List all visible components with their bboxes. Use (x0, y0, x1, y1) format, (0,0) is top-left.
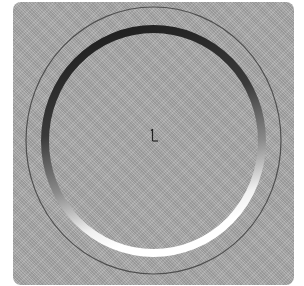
ring-diagram (0, 0, 304, 286)
axis-marker-icon (151, 129, 158, 141)
